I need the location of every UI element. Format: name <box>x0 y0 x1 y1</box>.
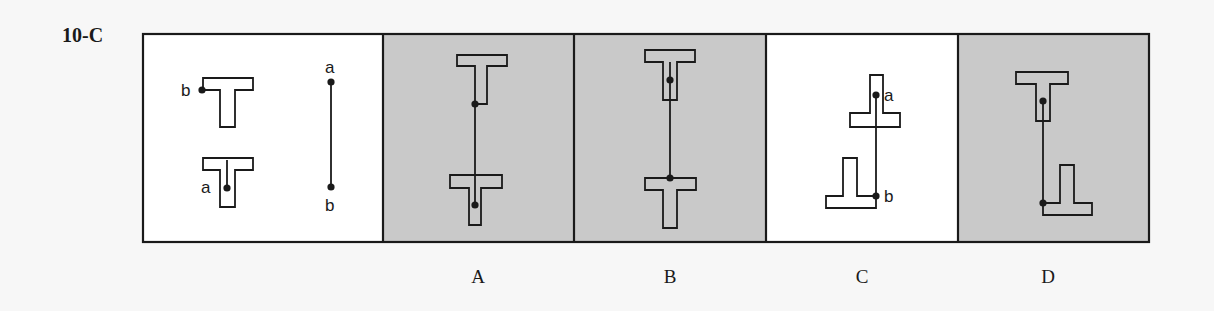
segment-label-b: b <box>325 196 334 215</box>
choice-label-b[interactable]: B <box>650 266 690 288</box>
choice-c-label-b: b <box>884 187 893 206</box>
puzzle-diagram: b a a b a b <box>0 0 1214 311</box>
label-b-on-t: b <box>181 81 190 100</box>
choice-label-c[interactable]: C <box>842 266 882 288</box>
choice-label-d[interactable]: D <box>1028 266 1068 288</box>
choice-panel-d[interactable] <box>958 34 1149 242</box>
choice-panel-c[interactable] <box>766 34 958 242</box>
choice-c-label-a: a <box>884 86 894 105</box>
stimulus-panel <box>143 34 383 242</box>
point-a-on-t <box>223 184 230 191</box>
point-b-on-t <box>198 86 205 93</box>
choice-label-a[interactable]: A <box>458 266 498 288</box>
segment-endpoint-a <box>327 78 334 85</box>
segment-label-a: a <box>325 58 335 77</box>
segment-endpoint-b <box>327 183 334 190</box>
choice-panel-a[interactable] <box>383 34 574 242</box>
label-a-on-t: a <box>201 178 211 197</box>
